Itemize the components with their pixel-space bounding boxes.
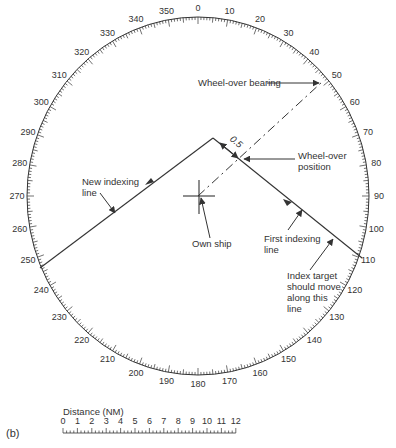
bearing-label: 290 [20, 127, 35, 137]
new-indexing-label-1: New indexing [82, 176, 139, 187]
bearing-label: 170 [222, 376, 237, 386]
scale-tick-label: 12 [231, 416, 241, 426]
wheel-over-bearing-label: Wheel-over bearing [198, 77, 281, 88]
bearing-label: 180 [190, 379, 205, 389]
scale-tick-label: 4 [118, 416, 123, 426]
bearing-label: 240 [34, 285, 49, 295]
new-indexing-line [40, 138, 213, 268]
bearing-label: 330 [100, 28, 115, 38]
scale-tick-label: 2 [89, 416, 94, 426]
bearing-label: 50 [332, 70, 342, 80]
bearing-label: 100 [369, 224, 384, 234]
distance-scale: 0123456789101112 [60, 416, 240, 433]
first-indexing-label-2: line [264, 244, 279, 255]
panel-label: (b) [6, 427, 19, 439]
distance-scale-title: Distance (NM) [63, 406, 124, 417]
own-ship-label: Own ship [192, 238, 232, 249]
index-target-label-4: line [287, 303, 302, 314]
bearing-label: 190 [159, 376, 174, 386]
bearing-label: 260 [12, 224, 27, 234]
bearing-label: 30 [283, 28, 293, 38]
scale-tick-label: 8 [176, 416, 181, 426]
bearing-label: 90 [374, 191, 384, 201]
new-indexing-leader [100, 193, 115, 213]
bearing-label: 200 [129, 368, 144, 378]
scale-tick-label: 6 [147, 416, 152, 426]
wheel-over-position-label-2: position [298, 161, 331, 172]
scale-tick-label: 11 [217, 416, 226, 426]
bearing-label: 320 [74, 47, 89, 57]
bearing-label: 0 [195, 3, 200, 13]
bearing-label: 160 [252, 368, 267, 378]
bearing-label: 350 [159, 6, 174, 16]
wheel-over-bearing-line [198, 82, 322, 196]
bearing-label: 280 [12, 158, 27, 168]
bearing-label: 60 [350, 97, 360, 107]
bearing-label: 80 [371, 158, 381, 168]
scale-tick-label: 7 [161, 416, 166, 426]
parallel-indexing-diagram: 0102030405060708090100110120130140150160… [0, 0, 396, 448]
bearing-label: 20 [255, 14, 265, 24]
scale-tick-label: 0 [60, 416, 65, 426]
index-target-label-2: should move [287, 281, 341, 292]
first-indexing-leader [288, 210, 302, 230]
bearing-label: 40 [309, 47, 319, 57]
scale-tick-label: 1 [75, 416, 80, 426]
scale-tick-label: 5 [132, 416, 137, 426]
bearing-label: 110 [361, 255, 375, 265]
scale-tick-label: 10 [202, 416, 212, 426]
bearing-label: 300 [34, 97, 49, 107]
bearing-label: 310 [52, 70, 67, 80]
scale-tick-label: 3 [104, 416, 109, 426]
bearing-label: 220 [74, 335, 89, 345]
bearing-label: 10 [224, 6, 234, 16]
new-indexing-label-2: line [82, 187, 97, 198]
bearing-label: 120 [347, 285, 362, 295]
bearing-label: 210 [100, 354, 115, 364]
bearing-label: 140 [307, 335, 322, 345]
wheel-over-position-label-1: Wheel-over [298, 150, 347, 161]
bearing-label: 130 [329, 312, 344, 322]
bearing-label: 70 [363, 127, 373, 137]
bearing-label: 340 [129, 14, 144, 24]
bearing-label: 230 [52, 312, 67, 322]
bearing-label: 150 [281, 354, 296, 364]
bearing-label: 250 [20, 255, 35, 265]
index-target-label-3: along this [287, 292, 328, 303]
own-ship-leader [201, 198, 210, 238]
bearing-label: 270 [9, 191, 24, 201]
index-target-label-1: Index target [287, 270, 337, 281]
scale-tick-label: 9 [190, 416, 195, 426]
first-indexing-label-1: First indexing [264, 233, 321, 244]
